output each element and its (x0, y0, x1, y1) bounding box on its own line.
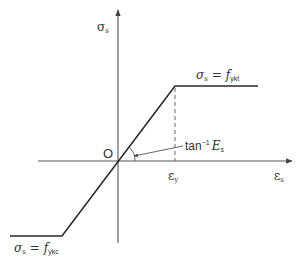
yield-strain-label: εy (168, 169, 178, 184)
slope-angle-arc (129, 147, 135, 161)
upper-plateau-label: σs=fykt (196, 68, 239, 83)
slope-leader-arrow (134, 146, 183, 156)
slope-label: tan−1Es (185, 139, 224, 153)
x-axis-label: εs (274, 169, 284, 184)
y-axis-label: σs (97, 20, 109, 35)
lower-plateau-label: σs=fykc (14, 241, 59, 256)
origin-label: O (103, 146, 113, 161)
stress-strain-diagram: σs εs O σs=fykt σs=fykc tan−1Es εy (0, 0, 301, 261)
